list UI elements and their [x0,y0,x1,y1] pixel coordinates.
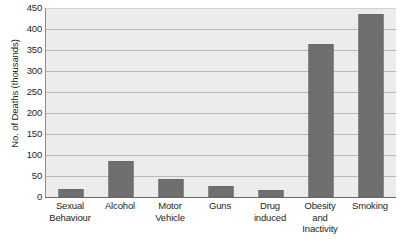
x-tick-label-line: Vehicle [145,212,195,224]
bar[interactable] [309,44,334,197]
y-tick-label: 450 [14,3,42,13]
x-tick-label: SexualBehaviour [45,200,95,223]
bar-slot [346,8,396,197]
x-tick-label-line: Inactivity [295,223,345,235]
bar-chart-figure: No. of Deaths (thousands) 05010015020025… [0,0,409,244]
bar[interactable] [59,189,84,197]
bar-slot [46,8,96,197]
y-tick-label: 400 [14,24,42,34]
y-tick-label: 300 [14,66,42,76]
bar-slot [196,8,246,197]
x-axis-tick-labels: SexualBehaviourAlcoholMotorVehicleGunsDr… [45,200,395,244]
bar[interactable] [259,190,284,197]
x-tick-label-line: and [295,212,345,224]
x-tick-label-line: Guns [195,200,245,212]
y-tick-label: 250 [14,87,42,97]
bar-slot [296,8,346,197]
plot-area [45,8,396,198]
bar-slot [246,8,296,197]
bar[interactable] [109,161,134,197]
y-tick-label: 50 [14,171,42,181]
y-tick-label: 200 [14,108,42,118]
bars-layer [46,8,396,197]
x-tick-label: MotorVehicle [145,200,195,223]
y-axis-tick-labels: 050100150200250300350400450 [14,0,42,244]
y-tick-label: 0 [14,192,42,202]
x-tick-label: Guns [195,200,245,212]
bar[interactable] [209,186,234,197]
bar-slot [146,8,196,197]
y-tick-label: 350 [14,45,42,55]
x-tick-label-line: Obesity [295,200,345,212]
bar-slot [96,8,146,197]
x-tick-label: Smoking [345,200,395,212]
x-tick-label-line: Alcohol [95,200,145,212]
x-tick-label-line: Behaviour [45,212,95,224]
x-tick-label-line: Drug [245,200,295,212]
x-tick-label-line: induced [245,212,295,224]
x-tick-label: Alcohol [95,200,145,212]
y-tick-label: 100 [14,150,42,160]
bar[interactable] [359,14,384,197]
x-tick-label-line: Motor [145,200,195,212]
bar[interactable] [159,179,184,197]
x-tick-label-line: Smoking [345,200,395,212]
x-tick-label-line: Sexual [45,200,95,212]
x-tick-label: ObesityandInactivity [295,200,345,235]
x-tick-label: Druginduced [245,200,295,223]
y-tick-label: 150 [14,129,42,139]
